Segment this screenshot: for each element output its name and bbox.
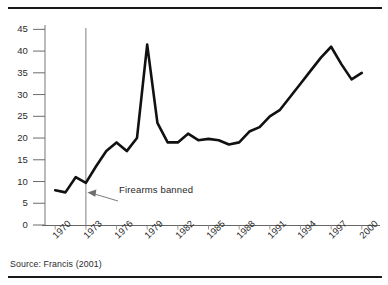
- y-tick-label: 30: [6, 89, 28, 100]
- source-note: Source: Francis (2001): [10, 259, 102, 269]
- y-tick-label: 15: [6, 154, 28, 165]
- y-tick-label: 35: [6, 67, 28, 78]
- firearms-banned-annotation-label: Firearms banned: [119, 184, 193, 195]
- y-tick-label: 40: [6, 45, 28, 56]
- y-tick-label: 25: [6, 110, 28, 121]
- data-series-line: [55, 45, 362, 193]
- y-tick-label: 5: [6, 197, 28, 208]
- y-tick-label: 0: [6, 219, 28, 230]
- y-tick-label: 10: [6, 176, 28, 187]
- y-tick-marks: [33, 29, 45, 225]
- y-tick-label: 45: [6, 23, 28, 34]
- figure-container: 051015202530354045 197019731976197919821…: [0, 0, 388, 285]
- line-chart-plot: [0, 0, 388, 285]
- annotation-arrow-icon: [87, 190, 118, 201]
- y-tick-label: 20: [6, 132, 28, 143]
